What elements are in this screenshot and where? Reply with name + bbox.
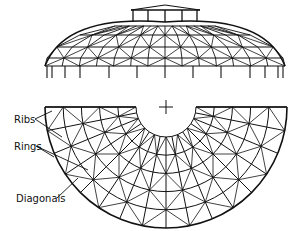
label-ribs: Ribs <box>14 114 35 125</box>
dome-elevation-view <box>45 5 285 78</box>
label-diagonals: Diagonals <box>16 193 66 204</box>
labels: Ribs Rings Diagonals <box>14 114 66 204</box>
center-cross-mark <box>159 100 173 114</box>
dome-diagram: Ribs Rings Diagonals <box>0 0 303 231</box>
dome-plan-view <box>45 107 287 228</box>
